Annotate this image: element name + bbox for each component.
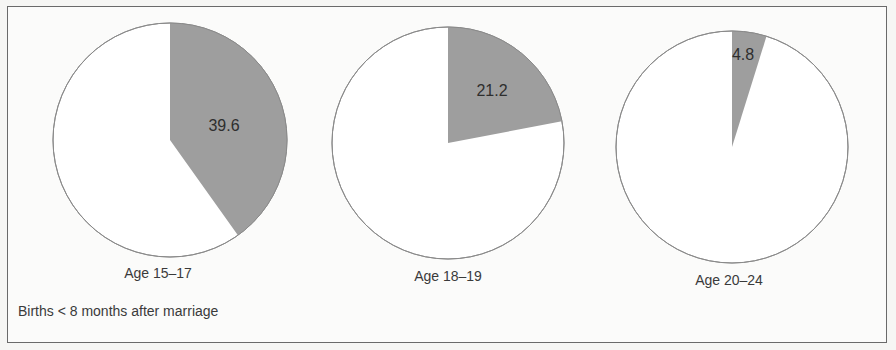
pie-age-20-24: 4.8 [616,31,848,263]
pie-title-age-15-17: Age 15–17 [124,265,192,281]
pie-age-15-17: 39.6 [53,23,287,257]
pie-title-age-18-19: Age 18–19 [414,268,482,284]
pie-title-age-20-24: Age 20–24 [695,272,763,288]
slice-value-label: 39.6 [208,117,239,134]
pie-age-18-19: 21.2 [332,27,564,259]
pie-charts: 39.6 21.2 4.8 [0,0,896,350]
slice-value-label: 4.8 [732,46,754,63]
legend-footnote: Births < 8 months after marriage [18,303,218,319]
slice-value-label: 21.2 [476,82,507,99]
